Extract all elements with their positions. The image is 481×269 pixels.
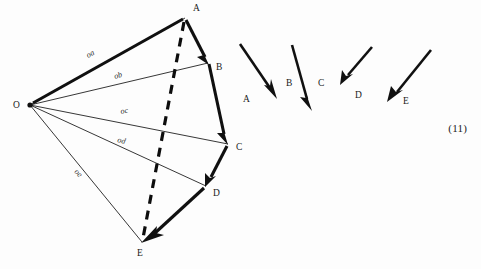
vertex-label-c: C [236, 142, 242, 152]
free-vector-b: B C [286, 45, 324, 111]
ray-ob [30, 63, 208, 105]
dashed-resultant-line [143, 22, 184, 238]
free-vector-a: A [240, 44, 277, 104]
segment-cd-shaft [211, 146, 227, 177]
free-vector-c-label: C [318, 78, 324, 88]
ray-oe [30, 105, 142, 242]
vertex-label-e: E [137, 248, 143, 258]
free-vector-d: D [340, 47, 372, 100]
free-vector-b-label: B [286, 78, 292, 88]
ray-label-od: od [117, 135, 128, 146]
free-vector-a-shaft [240, 44, 270, 88]
ray-label-oc: oc [120, 105, 130, 115]
segment-de-shaft [155, 188, 204, 233]
ray-labels: oa ob oc od oe [73, 48, 130, 179]
equation-number: (11) [448, 122, 467, 134]
rays-from-origin [30, 18, 228, 242]
vertex-label-a: A [193, 3, 200, 13]
ray-oc [30, 105, 228, 144]
chain-segment-oa [33, 19, 183, 103]
vertex-labels: O A B C D E [13, 3, 242, 258]
figure-root: O A B C D E oa ob oc od oe A B C [0, 0, 481, 269]
vertex-label-o: O [13, 100, 20, 110]
ray-label-ob: ob [113, 70, 123, 81]
origin-point [27, 102, 32, 107]
chain-segment-cd [205, 146, 227, 187]
vertex-label-d: D [213, 188, 220, 198]
chain-segment-bc [209, 64, 228, 145]
free-vector-e-label: E [403, 96, 409, 106]
vertex-label-b: B [216, 62, 222, 72]
free-vector-e-shaft [397, 50, 431, 92]
free-vector-b-arrowhead [300, 90, 312, 111]
ray-label-oa: oa [85, 48, 96, 60]
vector-diagram: O A B C D E oa ob oc od oe A B C [0, 0, 481, 269]
free-vector-a-label: A [243, 94, 250, 104]
segment-ab-shaft [186, 20, 205, 57]
free-vector-d-label: D [355, 90, 362, 100]
free-vector-b-shaft [292, 45, 307, 99]
chain-segment-ab [186, 20, 209, 65]
free-vector-e: E [387, 50, 431, 106]
free-vector-d-shaft [348, 47, 372, 75]
ray-od [30, 105, 206, 186]
segment-bc-shaft [209, 64, 224, 134]
